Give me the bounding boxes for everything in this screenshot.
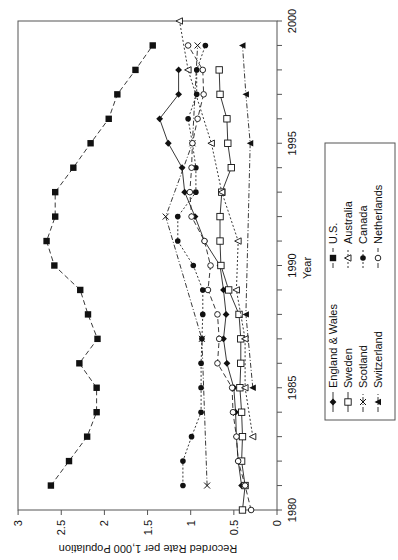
legend-label: Scotland [357, 345, 369, 388]
series-england-wales [156, 67, 245, 489]
series-u-s- [43, 42, 156, 489]
square-open-marker-icon [239, 507, 245, 513]
circle-marker-icon [360, 255, 366, 261]
square-open-marker-icon [224, 116, 230, 122]
year-tick-label: 1985 [286, 376, 298, 400]
year-tick-label: 1980 [286, 498, 298, 522]
circle-open-marker-icon [185, 43, 191, 49]
square-open-marker-icon [239, 433, 245, 439]
square-open-marker-icon [345, 399, 351, 405]
square-open-marker-icon [216, 67, 222, 73]
square-open-marker-icon [218, 262, 224, 268]
circle-marker-icon [180, 483, 186, 489]
year-tick-label: 1995 [286, 131, 298, 155]
square-open-marker-icon [228, 165, 234, 171]
square-marker-icon [85, 311, 91, 317]
value-axis-title: Recorded Rate per 1,000 Population [59, 543, 238, 555]
square-marker-icon [84, 433, 90, 439]
value-tick-label: 0.5 [228, 520, 240, 535]
circle-marker-icon [190, 263, 196, 269]
square-marker-icon [43, 238, 49, 244]
square-marker-icon [93, 409, 99, 415]
square-marker-icon [114, 91, 120, 97]
circle-open-marker-icon [248, 507, 254, 513]
square-marker-icon [48, 482, 54, 488]
square-marker-icon [106, 116, 112, 122]
circle-marker-icon [175, 214, 181, 220]
square-open-marker-icon [225, 287, 231, 293]
diamond-marker-icon [223, 311, 230, 318]
square-marker-icon [93, 385, 99, 391]
diamond-marker-icon [165, 140, 172, 147]
circle-open-marker-icon [216, 336, 222, 342]
circle-marker-icon [175, 238, 181, 244]
value-tick-label: 1 [185, 520, 197, 526]
circle-open-marker-icon [201, 92, 207, 98]
circle-marker-icon [193, 189, 199, 195]
year-tick-label: 2000 [286, 9, 298, 33]
circle-open-marker-icon [234, 434, 240, 440]
circle-open-marker-icon [205, 287, 211, 293]
series-layer [43, 18, 255, 513]
circle-marker-icon [199, 336, 205, 342]
legend-label: Netherlands [372, 184, 384, 244]
circle-open-marker-icon [208, 263, 214, 269]
value-tick-label: 2.5 [55, 520, 67, 535]
diamond-marker-icon [224, 360, 231, 367]
circle-marker-icon [198, 361, 204, 367]
square-open-marker-icon [225, 140, 231, 146]
square-marker-icon [76, 360, 82, 366]
circle-open-marker-icon [215, 312, 221, 318]
value-tick-label: 1.5 [142, 520, 154, 535]
square-marker-icon [330, 255, 336, 261]
legend-label: Switzerland [372, 331, 384, 388]
square-marker-icon [51, 262, 57, 268]
circle-marker-icon [203, 43, 209, 49]
circle-open-marker-icon [200, 67, 206, 73]
circle-marker-icon [185, 116, 191, 122]
diamond-marker-icon [175, 67, 182, 74]
square-marker-icon [66, 458, 72, 464]
square-open-marker-icon [217, 91, 223, 97]
square-marker-icon [52, 213, 58, 219]
legend-label: Sweden [342, 348, 354, 388]
diamond-marker-icon [179, 164, 186, 171]
square-open-marker-icon [217, 213, 223, 219]
x-marker-icon [195, 42, 201, 48]
square-open-marker-icon [217, 238, 223, 244]
circle-marker-icon [189, 434, 195, 440]
triangle-open-marker-icon [208, 140, 215, 146]
circle-open-marker-icon [189, 165, 195, 171]
year-axis-title: Year [301, 257, 313, 280]
series-australia [176, 18, 256, 440]
square-open-marker-icon [238, 409, 244, 415]
value-tick-label: 0 [271, 520, 283, 526]
legend-label: England & Wales [327, 304, 339, 388]
square-marker-icon [132, 67, 138, 73]
square-open-marker-icon [238, 360, 244, 366]
square-marker-icon [77, 287, 83, 293]
circle-open-marker-icon [229, 385, 235, 391]
circle-open-marker-icon [375, 255, 381, 261]
triangle-open-marker-icon [249, 433, 256, 439]
circle-open-marker-icon [189, 214, 195, 220]
series-scotland [163, 42, 210, 488]
circle-open-marker-icon [230, 409, 236, 415]
circle-open-marker-icon [215, 361, 221, 367]
value-axis-ticks: 00.511.522.53 [12, 510, 283, 535]
circle-open-marker-icon [242, 483, 248, 489]
value-tick-label: 3 [12, 520, 24, 526]
circle-marker-icon [198, 409, 204, 415]
year-tick-label: 1990 [286, 253, 298, 277]
circle-open-marker-icon [187, 189, 193, 195]
value-tick-label: 2 [98, 520, 110, 526]
circle-marker-icon [200, 312, 206, 318]
square-marker-icon [52, 189, 58, 195]
circle-open-marker-icon [195, 116, 201, 122]
year-axis-ticks: 19801985199019952000 [277, 9, 298, 522]
legend: England & WalesSwedenScotlandSwitzerland… [325, 143, 395, 420]
square-marker-icon [94, 336, 100, 342]
x-marker-icon [163, 214, 169, 220]
circle-open-marker-icon [235, 458, 241, 464]
square-marker-icon [150, 42, 156, 48]
